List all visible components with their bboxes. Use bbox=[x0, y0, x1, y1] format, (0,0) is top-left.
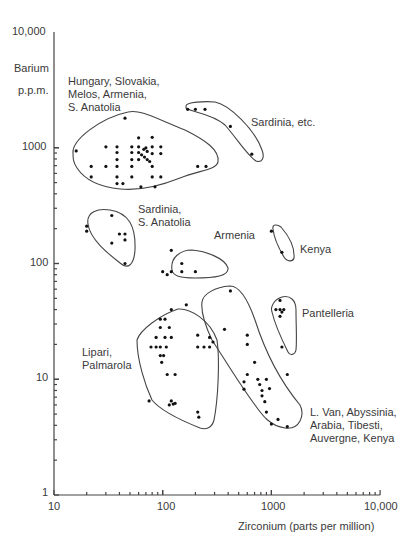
data-point bbox=[137, 136, 140, 139]
y-tick-1000: 1000 bbox=[22, 140, 46, 152]
data-point bbox=[208, 336, 211, 339]
data-point bbox=[137, 151, 140, 154]
data-point bbox=[180, 270, 183, 273]
data-point bbox=[276, 418, 279, 421]
data-point bbox=[165, 345, 168, 348]
data-point bbox=[123, 232, 126, 235]
x-tick-100: 100 bbox=[157, 500, 175, 512]
data-point bbox=[268, 387, 271, 390]
y-tick-10: 10 bbox=[36, 371, 48, 383]
data-point bbox=[174, 373, 177, 376]
data-point bbox=[242, 380, 245, 383]
data-point bbox=[115, 151, 118, 154]
data-point bbox=[278, 299, 281, 302]
data-point bbox=[85, 230, 88, 233]
y-tick-100: 100 bbox=[30, 256, 48, 268]
data-point bbox=[123, 238, 126, 241]
data-point bbox=[143, 156, 146, 159]
data-point bbox=[280, 251, 283, 254]
data-point bbox=[123, 117, 126, 120]
data-point bbox=[263, 400, 266, 403]
data-point bbox=[170, 270, 173, 273]
label-sardinia-anatolia: Sardinia, S. Anatolia bbox=[138, 203, 191, 229]
label-hungary: Hungary, Slovakia, Melos, Armenia, S. An… bbox=[68, 75, 160, 114]
data-point bbox=[168, 326, 171, 329]
data-point bbox=[75, 149, 78, 152]
y-tick-1: 1 bbox=[42, 486, 48, 498]
data-point bbox=[118, 232, 121, 235]
data-point bbox=[115, 182, 118, 185]
data-point bbox=[155, 345, 158, 348]
data-point bbox=[270, 423, 273, 426]
data-point bbox=[104, 165, 107, 168]
data-point bbox=[144, 146, 147, 149]
data-point bbox=[260, 389, 263, 392]
data-point bbox=[149, 345, 152, 348]
data-point bbox=[229, 125, 232, 128]
data-point bbox=[223, 328, 226, 331]
data-point bbox=[208, 345, 211, 348]
data-point bbox=[196, 165, 199, 168]
label-sardinia-etc: Sardinia, etc. bbox=[251, 116, 315, 129]
x-tick-10: 10 bbox=[48, 500, 60, 512]
data-point bbox=[110, 242, 113, 245]
data-point bbox=[242, 388, 245, 391]
data-point bbox=[123, 262, 126, 265]
data-point bbox=[185, 303, 188, 306]
data-point bbox=[161, 270, 164, 273]
data-point bbox=[130, 158, 133, 161]
data-point bbox=[196, 334, 199, 337]
data-point bbox=[174, 402, 177, 405]
label-lvan: L. Van, Abyssinia, Arabia, Tibesti, Auve… bbox=[310, 406, 397, 445]
data-point bbox=[280, 345, 283, 348]
data-point bbox=[130, 145, 133, 148]
data-point bbox=[151, 175, 154, 178]
data-point bbox=[115, 145, 118, 148]
data-point bbox=[194, 270, 197, 273]
data-point bbox=[246, 334, 249, 337]
data-point bbox=[115, 175, 118, 178]
label-pantelleria: Pantelleria bbox=[302, 307, 354, 320]
data-point bbox=[162, 354, 165, 357]
data-point bbox=[130, 175, 133, 178]
data-point bbox=[115, 158, 118, 161]
data-point bbox=[270, 230, 273, 233]
label-kenya: Kenya bbox=[300, 243, 331, 256]
data-point bbox=[166, 373, 169, 376]
data-point bbox=[282, 308, 285, 311]
outline-pantelleria bbox=[272, 297, 297, 355]
data-point bbox=[130, 151, 133, 154]
outline-kenya bbox=[273, 225, 294, 261]
data-point bbox=[151, 136, 154, 139]
data-point bbox=[139, 185, 142, 188]
data-point bbox=[163, 336, 166, 339]
outline-hungary bbox=[73, 111, 218, 189]
data-point bbox=[159, 145, 162, 148]
x-tick-1000: 1000 bbox=[261, 500, 285, 512]
data-point bbox=[159, 318, 162, 321]
data-point bbox=[170, 399, 173, 402]
data-point bbox=[121, 182, 124, 185]
data-point bbox=[151, 145, 154, 148]
outline-sardinia-etc bbox=[186, 102, 263, 162]
data-point bbox=[115, 165, 118, 168]
data-point bbox=[148, 399, 151, 402]
data-point bbox=[140, 153, 143, 156]
data-point bbox=[265, 378, 268, 381]
data-point bbox=[204, 165, 207, 168]
y-axis-label-line1: Barium bbox=[14, 62, 49, 75]
y-tick-10000: 10,000 bbox=[12, 25, 46, 37]
data-point bbox=[168, 403, 171, 406]
label-armenia: Armenia bbox=[214, 229, 255, 242]
data-point bbox=[110, 214, 113, 217]
data-point bbox=[151, 165, 154, 168]
data-point bbox=[256, 378, 259, 381]
data-point bbox=[197, 416, 200, 419]
outline-sardinia-anatolia bbox=[88, 210, 135, 267]
data-point bbox=[137, 145, 140, 148]
y-axis-label-line2: p.p.m. bbox=[18, 84, 49, 97]
data-point bbox=[278, 315, 281, 318]
data-point bbox=[229, 289, 232, 292]
data-point bbox=[196, 411, 199, 414]
data-point bbox=[260, 394, 263, 397]
